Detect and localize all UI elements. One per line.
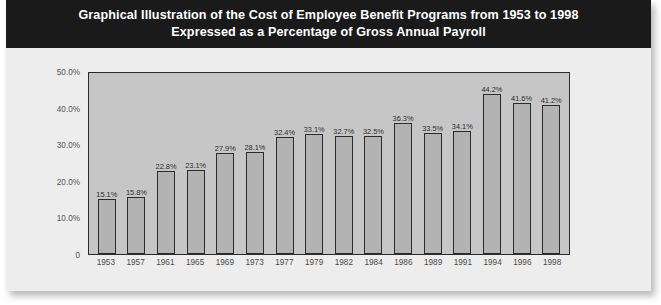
y-axis-tick: 50.0% bbox=[57, 68, 80, 77]
bar-value-label: 32.7% bbox=[333, 127, 354, 136]
bar[interactable]: 41.2% bbox=[542, 105, 560, 254]
bar[interactable]: 41.6% bbox=[513, 103, 531, 254]
bar[interactable]: 15.1% bbox=[98, 199, 116, 254]
x-axis-tick: 1973 bbox=[240, 258, 270, 274]
bar-value-label: 28.1% bbox=[244, 143, 265, 152]
plot-frame: 15.1%15.8%22.8%23.1%27.9%28.1%32.4%33.1%… bbox=[88, 72, 570, 255]
bar-value-label: 27.9% bbox=[215, 144, 236, 153]
chart-title-line-1: Graphical Illustration of the Cost of Em… bbox=[78, 7, 578, 24]
y-axis-tick: 10.0% bbox=[57, 214, 80, 223]
bar-value-label: 32.4% bbox=[274, 128, 295, 137]
bar-slot: 28.1% bbox=[240, 73, 270, 254]
chart-area: 50.0%40.0%30.0%20.0%10.0%0 15.1%15.8%22.… bbox=[6, 48, 651, 291]
x-axis-tick: 1979 bbox=[299, 258, 329, 274]
bar[interactable]: 23.1% bbox=[187, 170, 205, 254]
x-axis-tick: 1957 bbox=[121, 258, 151, 274]
bar-value-label: 15.1% bbox=[96, 190, 117, 199]
bar[interactable]: 28.1% bbox=[246, 152, 264, 254]
bar-slot: 41.6% bbox=[507, 73, 537, 254]
x-axis-tick: 1984 bbox=[359, 258, 389, 274]
bar-slot: 32.5% bbox=[359, 73, 389, 254]
bar-series: 15.1%15.8%22.8%23.1%27.9%28.1%32.4%33.1%… bbox=[89, 73, 569, 254]
bar[interactable]: 44.2% bbox=[483, 94, 501, 254]
bar[interactable]: 33.5% bbox=[424, 133, 442, 254]
bar-value-label: 33.1% bbox=[304, 125, 325, 134]
bar[interactable]: 27.9% bbox=[216, 153, 234, 254]
y-axis: 50.0%40.0%30.0%20.0%10.0%0 bbox=[28, 72, 84, 255]
bar-value-label: 22.8% bbox=[156, 162, 177, 171]
bar-value-label: 33.5% bbox=[422, 124, 443, 133]
bar-slot: 44.2% bbox=[477, 73, 507, 254]
bar-value-label: 32.5% bbox=[363, 127, 384, 136]
x-axis-tick: 1986 bbox=[389, 258, 419, 274]
x-axis-tick: 1982 bbox=[329, 258, 359, 274]
x-axis: 1953195719611965196919731977197919821984… bbox=[88, 258, 570, 274]
bar[interactable]: 15.8% bbox=[127, 197, 145, 254]
x-axis-tick: 1998 bbox=[537, 258, 567, 274]
chart-title-band: Graphical Illustration of the Cost of Em… bbox=[6, 0, 651, 48]
x-axis-tick: 1996 bbox=[508, 258, 538, 274]
y-axis-tick: 0 bbox=[75, 251, 80, 260]
x-axis-tick: 1994 bbox=[478, 258, 508, 274]
bar-slot: 22.8% bbox=[151, 73, 181, 254]
y-axis-tick: 20.0% bbox=[57, 177, 80, 186]
bar[interactable]: 36.3% bbox=[394, 123, 412, 254]
bar-slot: 36.3% bbox=[388, 73, 418, 254]
bar-slot: 27.9% bbox=[211, 73, 241, 254]
x-axis-tick: 1961 bbox=[151, 258, 181, 274]
bar-slot: 15.8% bbox=[122, 73, 152, 254]
bar[interactable]: 32.5% bbox=[364, 136, 382, 254]
bar-slot: 32.7% bbox=[329, 73, 359, 254]
bar-slot: 23.1% bbox=[181, 73, 211, 254]
x-axis-tick: 1965 bbox=[180, 258, 210, 274]
y-axis-tick: 30.0% bbox=[57, 141, 80, 150]
x-axis-tick: 1991 bbox=[448, 258, 478, 274]
bar[interactable]: 22.8% bbox=[157, 171, 175, 254]
bar-slot: 15.1% bbox=[92, 73, 122, 254]
x-axis-tick: 1953 bbox=[91, 258, 121, 274]
x-axis-tick: 1977 bbox=[270, 258, 300, 274]
bar-value-label: 41.6% bbox=[511, 94, 532, 103]
x-axis-tick: 1989 bbox=[418, 258, 448, 274]
bar-value-label: 15.8% bbox=[126, 188, 147, 197]
bar[interactable]: 32.7% bbox=[335, 136, 353, 254]
bar-value-label: 41.2% bbox=[541, 96, 562, 105]
bar-slot: 32.4% bbox=[270, 73, 300, 254]
y-axis-tick: 40.0% bbox=[57, 104, 80, 113]
bar-slot: 34.1% bbox=[448, 73, 478, 254]
screenshot-root: Graphical Illustration of the Cost of Em… bbox=[0, 0, 661, 305]
bar[interactable]: 32.4% bbox=[276, 137, 294, 254]
bar-value-label: 44.2% bbox=[481, 85, 502, 94]
chart-card: Graphical Illustration of the Cost of Em… bbox=[6, 0, 651, 291]
bar-value-label: 23.1% bbox=[185, 161, 206, 170]
x-axis-tick: 1969 bbox=[210, 258, 240, 274]
chart-title-line-2: Expressed as a Percentage of Gross Annua… bbox=[171, 24, 486, 41]
bar[interactable]: 34.1% bbox=[453, 131, 471, 254]
bar-value-label: 36.3% bbox=[393, 114, 414, 123]
bar-slot: 33.5% bbox=[418, 73, 448, 254]
bar[interactable]: 33.1% bbox=[305, 134, 323, 254]
bar-slot: 41.2% bbox=[536, 73, 566, 254]
bar-slot: 33.1% bbox=[299, 73, 329, 254]
bar-value-label: 34.1% bbox=[452, 122, 473, 131]
